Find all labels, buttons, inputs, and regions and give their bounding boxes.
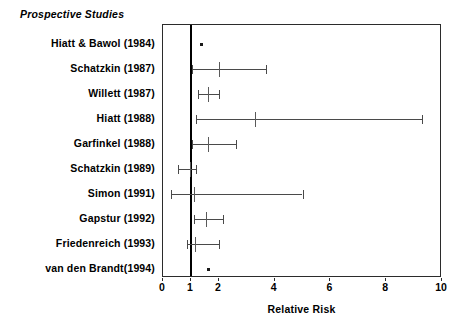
forest-plot-figure: Prospective Studies Hiatt & Bawol (1984)… [0, 0, 471, 325]
x-tick-label: 2 [215, 281, 221, 293]
ci-upper-cap [219, 90, 220, 99]
point-estimate-marker [208, 87, 209, 102]
study-data-row [163, 69, 440, 70]
ci-upper-cap [219, 240, 220, 249]
point-estimate-marker [200, 43, 203, 46]
x-tick-label: 10 [435, 281, 447, 293]
ci-lower-cap [198, 90, 199, 99]
study-data-row [163, 119, 440, 120]
x-axis-ticks: 01246810 [162, 278, 441, 294]
x-axis-title: Relative Risk [162, 303, 441, 315]
ci-upper-cap [266, 65, 267, 74]
study-data-row [163, 194, 440, 195]
confidence-interval-line [187, 244, 219, 245]
ci-lower-cap [171, 190, 172, 199]
ci-lower-cap [178, 165, 179, 174]
study-data-row [163, 94, 440, 95]
ci-upper-cap [223, 215, 224, 224]
plot-area [162, 24, 441, 277]
point-estimate-marker [190, 162, 191, 177]
ci-upper-cap [422, 115, 423, 124]
study-data-row [163, 269, 440, 270]
x-tick-label: 0 [159, 281, 165, 293]
point-estimate-marker [219, 62, 220, 77]
group-heading: Prospective Studies [20, 8, 124, 20]
ci-lower-cap [192, 140, 193, 149]
study-data-row [163, 44, 440, 45]
ci-lower-cap [194, 215, 195, 224]
x-tick-label: 6 [326, 281, 332, 293]
study-label: Schatzkin (1989) [0, 162, 155, 174]
study-data-row [163, 169, 440, 170]
x-tick-label: 1 [187, 281, 193, 293]
study-label: van den Brandt(1994) [0, 262, 155, 274]
point-estimate-marker [206, 212, 207, 227]
point-estimate-marker [195, 237, 196, 252]
study-label: Schatzkin (1987) [0, 62, 155, 74]
confidence-interval-line [171, 194, 302, 195]
study-label: Friedenreich (1993) [0, 237, 155, 249]
ci-lower-cap [187, 240, 188, 249]
ci-upper-cap [303, 190, 304, 199]
confidence-interval-line [194, 219, 223, 220]
point-estimate-marker [208, 137, 209, 152]
study-label: Willett (1987) [0, 87, 155, 99]
point-estimate-marker [207, 268, 210, 271]
confidence-interval-line [196, 119, 422, 120]
confidence-interval-line [178, 169, 196, 170]
study-data-row [163, 144, 440, 145]
study-label: Simon (1991) [0, 187, 155, 199]
confidence-interval-line [192, 69, 266, 70]
confidence-interval-line [192, 144, 235, 145]
point-estimate-marker [255, 112, 256, 127]
ci-upper-cap [236, 140, 237, 149]
study-data-row [163, 244, 440, 245]
null-reference-line [190, 25, 192, 276]
study-label: Gapstur (1992) [0, 212, 155, 224]
point-estimate-marker [194, 187, 195, 202]
ci-upper-cap [196, 165, 197, 174]
study-data-row [163, 219, 440, 220]
study-label: Hiatt & Bawol (1984) [0, 37, 155, 49]
ci-lower-cap [192, 65, 193, 74]
ci-lower-cap [196, 115, 197, 124]
study-label: Garfinkel (1988) [0, 137, 155, 149]
study-label: Hiatt (1988) [0, 112, 155, 124]
x-tick-label: 4 [271, 281, 277, 293]
x-tick-label: 8 [382, 281, 388, 293]
